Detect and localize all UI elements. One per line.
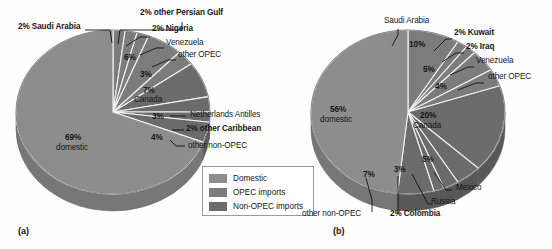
label-b-canada: Canada bbox=[413, 121, 441, 130]
legend-swatch-opec bbox=[209, 188, 227, 197]
label-a-domestic-pct: 69% bbox=[65, 133, 81, 142]
label-b-domestic: domestic bbox=[320, 115, 352, 124]
label-b-mexico: Mexico bbox=[456, 183, 481, 192]
label-b-venezuela-pct: 5% bbox=[423, 65, 435, 74]
label-b-colombia: 2% Colombia bbox=[390, 209, 440, 218]
label-b-other-opec-pct: 4% bbox=[435, 82, 447, 91]
label-b-other-non-opec-pct: 7% bbox=[363, 170, 375, 179]
label-a-netherlands-antilles: Netherlands Antilles bbox=[190, 110, 260, 119]
label-b-canada-pct: 20% bbox=[420, 111, 436, 120]
legend-swatch-domestic bbox=[209, 174, 227, 183]
label-b-other-opec: other OPEC bbox=[488, 72, 531, 81]
label-a-other-caribbean: 2% other Caribbean bbox=[186, 124, 261, 133]
label-b-domestic-pct: 56% bbox=[330, 105, 346, 114]
label-a-other-non-opec: other non-OPEC bbox=[188, 141, 247, 150]
panel-tag-a: (a) bbox=[18, 226, 29, 236]
label-b-other-non-opec: other non-OPEC bbox=[302, 209, 361, 218]
label-b-venezuela: Venezuela bbox=[476, 56, 513, 65]
label-a-other-opec-pct: 3% bbox=[140, 70, 152, 79]
pie-chart-b-panel: Saudi Arabia 10%Kuwait 2%Iraq 2%Venezuel… bbox=[276, 0, 552, 249]
label-b-iraq: 2% Iraq bbox=[466, 42, 494, 51]
label-b-saudi-arabia-pct: 10% bbox=[409, 40, 425, 49]
panel-tag-b: (b) bbox=[333, 226, 345, 236]
label-a-nigeria: 2% Nigeria bbox=[152, 24, 193, 33]
label-b-russia-pct: 3% bbox=[394, 165, 406, 174]
label-b-mexico-pct: 5% bbox=[422, 155, 434, 164]
label-a-other-persian-gulf: 2% other Persian Gulf bbox=[140, 8, 223, 17]
label-a-canada-pct: 7% bbox=[143, 86, 155, 95]
pie-chart-a-panel: Saudi Arabia 2%other Persian Gulf 2%Nige… bbox=[0, 0, 276, 249]
figure-two-pie-charts: Saudi Arabia 2%other Persian Gulf 2%Nige… bbox=[0, 0, 552, 249]
label-a-other-opec: other OPEC bbox=[178, 50, 221, 59]
label-a-canada: Canada bbox=[134, 95, 162, 104]
label-b-kuwait: 2% Kuwait bbox=[454, 28, 494, 37]
legend-label-domestic: Domestic bbox=[233, 174, 267, 183]
label-a-domestic: domestic bbox=[56, 143, 88, 152]
label-a-netherlands-pct: 3% bbox=[152, 112, 164, 121]
legend-swatch-non-opec bbox=[209, 202, 227, 211]
label-a-venezuela-pct: 6% bbox=[124, 53, 136, 62]
label-b-russia: Russia bbox=[431, 197, 455, 206]
label-b-saudi-arabia: Saudi Arabia bbox=[384, 16, 429, 25]
label-a-venezuela: Venezuela bbox=[166, 38, 203, 47]
label-a-saudi-arabia: 2% Saudi Arabia bbox=[18, 22, 80, 31]
label-a-other-non-opec-pct: 4% bbox=[151, 133, 163, 142]
